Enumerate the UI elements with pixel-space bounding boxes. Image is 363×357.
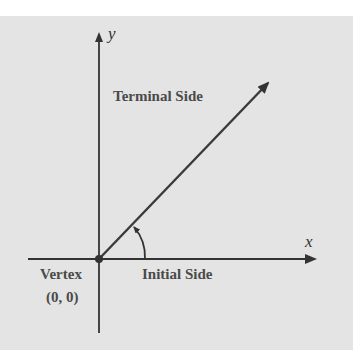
x-axis-label: x <box>305 232 313 252</box>
terminal-side-ray <box>99 83 268 259</box>
vertex-point <box>95 255 103 263</box>
initial-side-label: Initial Side <box>142 266 212 283</box>
vertex-coords-label: (0, 0) <box>46 289 79 306</box>
angle-arc <box>134 227 145 259</box>
vertex-label: Vertex <box>40 266 82 283</box>
terminal-side-label: Terminal Side <box>113 88 203 105</box>
y-axis-label: y <box>108 24 116 44</box>
